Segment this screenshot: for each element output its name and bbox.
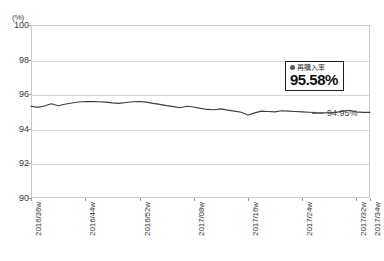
y-axis-tick-label: 98 [1,55,29,65]
series-line-repurchase-rate [31,25,370,198]
x-axis-tick-label: 2017/34w [373,202,382,236]
x-axis-tick-label: 2016/44w [88,202,97,236]
x-axis-tick-label: 2016/52w [143,202,152,236]
tooltip-callout[interactable]: 再購入率 95.58% [285,61,344,91]
x-axis-tick-mark [85,198,86,201]
y-axis-tick-label: 96 [1,89,29,99]
y-axis-ticks: 1009896949290 [0,0,29,261]
repurchase-rate-line-chart: (%) 1009896949290 2016/36w2016/44w2016/5… [0,0,384,261]
tooltip-series-label: 再購入率 [297,64,325,71]
x-axis-tick-mark [194,198,195,201]
end-value-label: 94.95% [327,108,358,118]
x-axis-tick-mark [370,198,371,201]
x-axis-tick-mark [302,198,303,201]
x-axis-tick-mark [31,198,32,201]
x-axis-tick-label: 2017/32w [359,202,368,236]
y-axis-tick-label: 92 [1,158,29,168]
x-axis-tick-label: 2017/08w [197,202,206,236]
x-axis-tick-label: 2017/16w [251,202,260,236]
x-axis-tick-mark [140,198,141,201]
tooltip-header: 再購入率 [290,64,338,71]
end-label-connector [312,113,324,114]
y-axis-tick-label: 90 [1,193,29,203]
x-axis-tick-mark [248,198,249,201]
y-axis-tick-label: 94 [1,124,29,134]
x-axis-tick-label: 2016/36w [34,202,43,236]
x-axis-tick-label: 2017/24w [305,202,314,236]
y-axis-tick-label: 100 [1,20,29,30]
series-marker-dot-icon [290,65,295,70]
tooltip-value: 95.58% [290,72,338,88]
x-axis-tick-mark [356,198,357,201]
